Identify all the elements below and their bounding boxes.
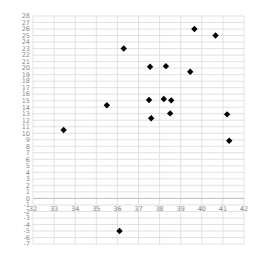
diamond-marker <box>224 111 230 117</box>
diamond-marker <box>168 97 174 103</box>
diamond-marker <box>187 68 193 74</box>
diamond-marker <box>60 127 66 133</box>
diamond-marker <box>167 110 173 116</box>
diamond-marker <box>161 96 167 102</box>
x-tick-label: 42 <box>240 205 248 213</box>
x-tick-label: 32 <box>29 205 37 213</box>
x-tick-label: 34 <box>71 205 79 213</box>
diamond-marker <box>147 64 153 70</box>
x-tick-label: 33 <box>50 205 58 213</box>
x-tick-label: 39 <box>177 205 185 213</box>
data-points <box>60 26 232 234</box>
scatter-chart: -7-6-5-4-3-2-101234567891011121314151617… <box>0 0 260 259</box>
diamond-marker <box>146 97 152 103</box>
x-tick-label: 36 <box>113 205 121 213</box>
diamond-marker <box>121 45 127 51</box>
x-tick-label: 35 <box>92 205 100 213</box>
x-axis-tick-labels: 3233343536373839404142 <box>29 205 248 213</box>
x-tick-label: 41 <box>219 205 227 213</box>
x-tick-label: 38 <box>155 205 163 213</box>
x-tick-label: 40 <box>198 205 206 213</box>
x-tick-label: 37 <box>134 205 142 213</box>
y-tick-label: 28 <box>22 12 30 20</box>
diamond-marker <box>191 26 197 32</box>
diamond-marker <box>226 138 232 144</box>
diamond-marker <box>212 32 218 38</box>
